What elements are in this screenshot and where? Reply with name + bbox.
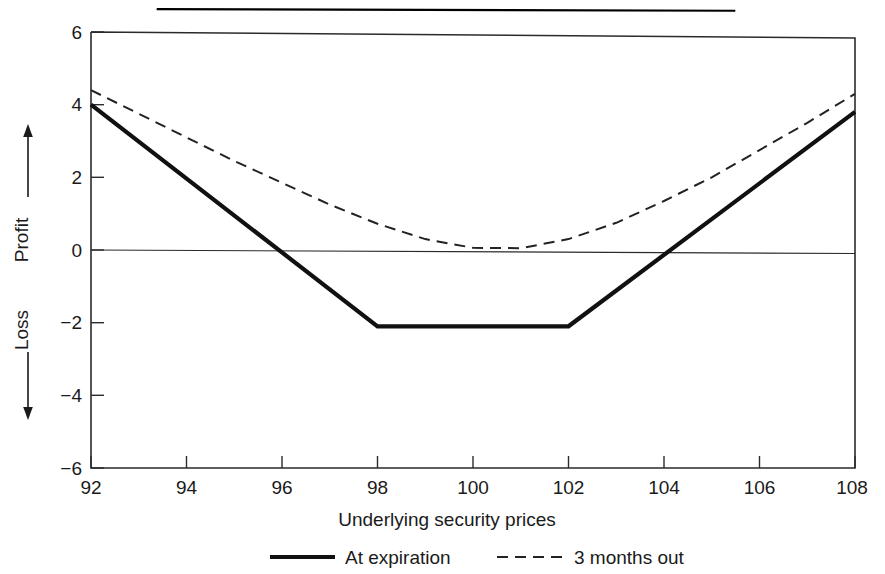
- zero-reference-line: [91, 250, 855, 254]
- x-axis-title: Underlying security prices: [338, 509, 556, 530]
- chart-legend: At expiration 3 months out: [270, 547, 685, 568]
- y-tick-label: 2: [71, 167, 82, 188]
- x-tick-label: 92: [80, 477, 101, 498]
- y-axis-label-group: Profit Loss: [11, 124, 33, 420]
- x-tick-label: 98: [367, 477, 388, 498]
- x-tick-label: 100: [457, 477, 489, 498]
- y-tick-label: −4: [60, 385, 82, 406]
- series-3-months-out: [91, 90, 855, 248]
- profit-loss-chart: −6 −4 −2 0 2 4 6 92 94 96 98 100: [0, 0, 885, 574]
- x-tick-label: 104: [648, 477, 680, 498]
- y-tick-labels: −6 −4 −2 0 2 4 6: [60, 22, 82, 479]
- y-axis-label-profit: Profit: [11, 217, 32, 262]
- y-axis-label-loss: Loss: [11, 310, 32, 350]
- y-tick-label: −6: [60, 458, 82, 479]
- legend-label-3-months-out: 3 months out: [574, 547, 685, 568]
- x-tick-label: 102: [553, 477, 585, 498]
- x-tick-labels: 92 94 96 98 100 102 104 106 108: [80, 477, 867, 498]
- series-at-expiration: [91, 105, 855, 327]
- y-tick-label: −2: [60, 312, 82, 333]
- figure-container: −6 −4 −2 0 2 4 6 92 94 96 98 100: [0, 0, 885, 574]
- x-tick-label: 106: [744, 477, 776, 498]
- y-tick-label: 0: [71, 240, 82, 261]
- loss-arrow-head-icon: [23, 407, 33, 420]
- x-tick-label: 108: [836, 477, 868, 498]
- x-tick-label: 96: [271, 477, 292, 498]
- legend-label-at-expiration: At expiration: [345, 547, 451, 568]
- profit-arrow-head-icon: [23, 124, 33, 137]
- x-tick-label: 94: [176, 477, 198, 498]
- x-axis-ticks: [91, 456, 855, 468]
- y-tick-label: 4: [71, 94, 82, 115]
- y-tick-label: 6: [71, 22, 82, 43]
